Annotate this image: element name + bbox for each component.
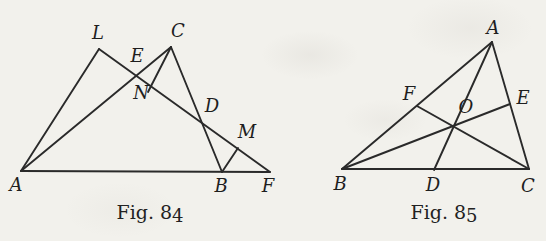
fig84-segment-AF [21,171,270,172]
fig85-point-label-F: F [402,83,417,104]
fig-84-caption-digit: 4 [172,205,183,226]
fig85-point-label-D: D [425,174,441,195]
fig84-point-label-C: C [171,20,185,41]
fig84-segment-AC [21,47,171,171]
fig84-point-label-L: L [91,22,104,43]
scanned-book-page: ALCENDMBFABCDEFO Fig. 84 Fig. 85 [0,0,546,241]
fig85-segment-BE [342,104,510,169]
fig-85-caption-prefix: Fig. 8 [410,201,466,223]
fig85-point-label-B: B [332,173,346,194]
fig85-drawing: ABCDEFO [332,17,535,196]
fig85-point-label-E: E [515,87,529,108]
fig84-point-label-N: N [132,82,150,103]
fig84-drawing: ALCENDMBF [8,20,276,196]
fig85-point-label-C: C [521,175,535,196]
fig84-point-label-B: B [213,175,227,196]
fig85-point-label-A: A [485,17,500,38]
fig-85-caption-digit: 5 [466,205,477,226]
fig85-point-label-O: O [459,96,474,117]
fig84-point-label-M: M [237,121,257,142]
fig84-segment-AL [21,49,99,171]
fig84-segment-BM [222,148,238,172]
fig84-point-label-D: D [204,95,220,116]
fig-84-caption: Fig. 84 [95,201,205,223]
fig84-segment-CN [148,47,171,92]
fig84-point-label-F: F [261,175,276,196]
fig84-segment-LF [99,49,270,172]
fig-85-caption: Fig. 85 [389,201,499,223]
fig-84-caption-prefix: Fig. 8 [116,201,172,223]
fig84-point-label-E: E [129,45,143,66]
fig84-point-label-A: A [8,174,23,195]
